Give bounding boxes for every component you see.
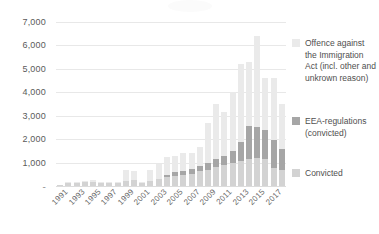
- bar-segment: [238, 161, 244, 186]
- bar-segment: [221, 112, 227, 156]
- bar-segment: [262, 78, 268, 130]
- bar-segment: [221, 156, 227, 165]
- legend-item[interactable]: Convicted: [292, 168, 343, 180]
- bar-segment: [189, 174, 195, 186]
- bar-segment: [82, 181, 88, 182]
- y-axis-tick-label: -: [42, 182, 46, 191]
- x-axis-tick-label: 2015: [248, 188, 267, 207]
- bar-segment: [189, 169, 195, 174]
- legend-item-label: Offence against the Immigration Act (inc…: [305, 38, 377, 84]
- bar-segment: [205, 163, 211, 170]
- x-axis-tick-label: 2013: [232, 188, 251, 207]
- legend-swatch-icon: [292, 169, 300, 177]
- bar-segment: [205, 123, 211, 162]
- bar-segment: [279, 149, 285, 170]
- bar-segment: [238, 64, 244, 142]
- bar-segment: [98, 183, 104, 187]
- y-axis-tick-label: 1,000: [22, 158, 46, 167]
- x-axis-tick-label: 2017: [265, 188, 284, 207]
- bar-segment: [197, 166, 203, 172]
- bar-segment: [65, 183, 71, 186]
- bar-segment: [246, 159, 252, 186]
- x-axis-tick-label: 2009: [199, 188, 218, 207]
- bar-segment: [156, 179, 162, 186]
- bar-segment: [230, 151, 236, 163]
- legend-item[interactable]: Offence against the Immigration Act (inc…: [292, 38, 377, 84]
- y-axis-tick-label: 3,000: [22, 111, 46, 120]
- bar-series-group: [56, 22, 286, 186]
- bar-segment: [115, 183, 121, 187]
- bar-segment: [213, 167, 219, 186]
- bar-segment: [115, 182, 121, 183]
- x-axis-tick-label: 1993: [67, 188, 86, 207]
- bar-segment: [106, 182, 112, 183]
- bar-segment: [172, 156, 178, 173]
- bar-segment: [279, 170, 285, 186]
- bar-segment: [230, 92, 236, 151]
- bar-segment: [147, 181, 153, 186]
- y-axis-tick-label: 7,000: [22, 18, 46, 27]
- x-axis-tick-label: 2001: [133, 188, 152, 207]
- x-axis-tick-label: 2011: [216, 188, 234, 206]
- bar-segment: [90, 180, 96, 182]
- x-axis-tick-label: 1991: [51, 188, 70, 207]
- bar-segment: [131, 180, 137, 186]
- bar-segment: [230, 163, 236, 186]
- bar-segment: [246, 126, 252, 160]
- bar-segment: [180, 175, 186, 186]
- bar-segment: [197, 147, 203, 166]
- bar-segment: [213, 159, 219, 166]
- y-axis-tick-label: 2,000: [22, 135, 46, 144]
- y-axis-tick-label: 5,000: [22, 64, 46, 73]
- bar-segment: [271, 140, 277, 167]
- plot-area: [56, 22, 286, 186]
- bar-segment: [65, 182, 71, 183]
- legend-swatch-icon: [292, 117, 300, 125]
- bar-segment: [246, 62, 252, 125]
- bar-segment: [82, 182, 88, 186]
- x-axis-tick-label: 1999: [117, 188, 136, 207]
- bar-segment: [254, 127, 260, 159]
- bar-segment: [180, 171, 186, 175]
- axis-baseline: [56, 186, 286, 187]
- bar-segment: [74, 183, 80, 186]
- bar-segment: [213, 104, 219, 159]
- legend-item[interactable]: EEA-regulations (convicted): [292, 116, 377, 139]
- bar-segment: [271, 78, 277, 140]
- bar-segment: [164, 157, 170, 174]
- bar-segment: [90, 182, 96, 186]
- bar-segment: [147, 170, 153, 181]
- y-axis: 7,0006,0005,0004,0003,0002,0001,000-: [0, 22, 50, 186]
- bar-segment: [98, 182, 104, 183]
- bar-segment: [131, 171, 137, 180]
- bar-segment: [123, 170, 129, 180]
- bar-segment: [57, 185, 63, 186]
- stacked-bar-chart: 7,0006,0005,0004,0003,0002,0001,000- 199…: [0, 0, 379, 234]
- legend-swatch-icon: [292, 39, 300, 47]
- watermark-artifact: [168, 0, 212, 12]
- bar-segment: [189, 153, 195, 169]
- bar-segment: [197, 171, 203, 186]
- bar-segment: [279, 104, 285, 149]
- bar-segment: [205, 170, 211, 186]
- bar-segment: [221, 165, 227, 186]
- x-axis-tick-label: 2007: [182, 188, 201, 207]
- bar-segment: [172, 172, 178, 176]
- bar-segment: [262, 159, 268, 186]
- bar-segment: [254, 36, 260, 127]
- bar-segment: [238, 142, 244, 162]
- bar-segment: [139, 183, 145, 186]
- bar-segment: [180, 153, 186, 171]
- bar-segment: [123, 181, 129, 186]
- x-axis-tick-label: 2005: [166, 188, 185, 207]
- y-axis-tick-label: 6,000: [22, 41, 46, 50]
- bar-segment: [106, 183, 112, 186]
- x-axis-tick-label: 2003: [150, 188, 169, 207]
- bar-segment: [74, 182, 80, 183]
- x-axis-tick-label: 1995: [84, 188, 103, 207]
- bar-segment: [164, 175, 170, 178]
- y-axis-tick-label: 4,000: [22, 88, 46, 97]
- bar-segment: [164, 177, 170, 186]
- bar-segment: [271, 168, 277, 186]
- bar-segment: [262, 130, 268, 159]
